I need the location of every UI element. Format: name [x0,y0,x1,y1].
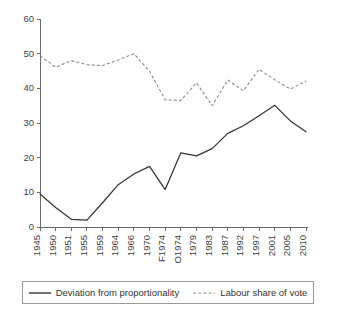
legend-swatch-dashed-icon [193,289,215,297]
plot-area: 0102030405060 19451950195119551959196419… [0,0,339,275]
x-tick-label: 1992 [234,235,245,256]
y-axis-ticks: 0102030405060 [23,13,40,232]
x-tick-label: 1951 [62,235,73,256]
legend-item-deviation: Deviation from proportionality [29,287,180,298]
x-tick-label: 2010 [297,235,308,256]
x-tick-label: 1950 [47,235,58,256]
x-tick-label: 1987 [219,235,230,256]
x-tick-label: 1983 [203,235,214,256]
legend-label-deviation: Deviation from proportionality [56,287,180,298]
legend-label-labour: Labour share of vote [220,287,307,298]
series-line-deviation [40,105,306,220]
chart-legend: Deviation from proportionality Labour sh… [22,281,314,304]
x-tick-label: 1945 [31,235,42,256]
y-tick-label: 40 [23,82,34,93]
y-tick-label: 50 [23,48,34,59]
x-tick-label: 1997 [250,235,261,256]
x-tick-label: 2005 [281,235,292,256]
series-line-labour [40,54,306,106]
y-tick-label: 10 [23,186,34,197]
x-tick-label: F1974 [156,235,167,262]
x-axis-ticks: 19451950195119551959196419661970F1974O19… [31,227,308,264]
x-tick-label: 1970 [141,235,152,256]
x-tick-label: 1966 [125,235,136,256]
data-series-group [40,54,306,220]
legend-swatch-solid-icon [29,289,51,297]
chart-container: 0102030405060 19451950195119551959196419… [0,0,339,314]
x-tick-label: 1959 [94,235,105,256]
y-tick-label: 30 [23,117,34,128]
y-tick-label: 20 [23,152,34,163]
x-tick-label: 1955 [78,235,89,256]
line-chart-svg: 0102030405060 19451950195119551959196419… [0,0,339,275]
x-tick-label: O1974 [172,235,183,264]
x-tick-label: 1979 [187,235,198,256]
y-tick-label: 60 [23,13,34,24]
y-tick-label: 0 [29,221,34,232]
x-tick-label: 2001 [266,235,277,256]
legend-item-labour: Labour share of vote [193,287,307,298]
x-tick-label: 1964 [109,235,120,256]
